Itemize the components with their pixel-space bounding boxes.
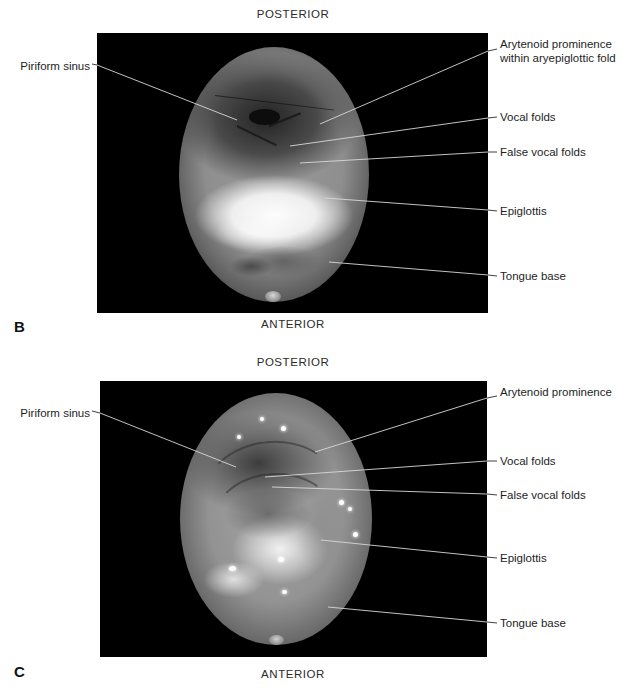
endoscopic-photo-b — [97, 33, 488, 313]
callout-piriform-sinus-c: Piriform sinus — [0, 407, 90, 421]
specular-highlight-c-8 — [278, 557, 284, 562]
callout-piriform-sinus-b: Piriform sinus — [0, 60, 90, 74]
anterior-commissure-nub-c — [269, 635, 284, 645]
specular-highlight-c-1 — [237, 435, 241, 439]
specular-highlight-c-2 — [281, 426, 286, 431]
callout-false-vocal-folds-c: False vocal folds — [500, 489, 628, 503]
leader-epiglottis-b — [488, 210, 497, 211]
callout-vocal-folds-c: Vocal folds — [500, 455, 628, 469]
leader-tongue-base-b — [488, 275, 497, 276]
leader-piriform-sinus-c — [92, 411, 100, 413]
laryngoscope-view-b — [179, 47, 369, 302]
callout-tongue-base-b: Tongue base — [500, 270, 628, 284]
callout-arytenoid-prominence-c: Arytenoid prominence — [500, 386, 628, 400]
specular-highlight-c-9 — [282, 590, 287, 594]
orientation-label-posterior-c: POSTERIOR — [233, 356, 353, 368]
specular-highlight-c-7 — [229, 566, 236, 571]
callout-false-vocal-folds-b: False vocal folds — [500, 146, 628, 160]
orientation-label-anterior-c: ANTERIOR — [233, 668, 353, 680]
specular-highlight-c-3 — [260, 417, 264, 421]
orientation-label-posterior-b: POSTERIOR — [233, 8, 353, 20]
leader-vocal-folds-b — [488, 117, 497, 118]
specular-highlight-c-5 — [348, 507, 352, 511]
leader-tongue-base-c — [487, 622, 497, 623]
leader-arytenoid-prominence-b — [488, 49, 497, 51]
anterior-commissure-nub-b — [265, 291, 281, 302]
callout-vocal-folds-b: Vocal folds — [500, 111, 628, 125]
leader-false-vocal-folds-c — [487, 494, 497, 495]
orientation-label-anterior-b: ANTERIOR — [233, 318, 353, 330]
leader-arytenoid-prominence-c — [487, 396, 497, 398]
callout-arytenoid-prominence-b: Arytenoid prominence within aryepiglotti… — [500, 38, 628, 65]
specular-highlight-c-4 — [339, 500, 344, 505]
callout-epiglottis-b: Epiglottis — [500, 205, 628, 219]
panel-letter-b: B — [14, 318, 25, 335]
callout-tongue-base-c: Tongue base — [500, 617, 628, 631]
specular-highlight-c-6 — [353, 532, 358, 537]
endoscopic-photo-c — [100, 381, 487, 657]
leader-epiglottis-c — [487, 557, 497, 558]
callout-epiglottis-c: Epiglottis — [500, 552, 628, 566]
panel-letter-c: C — [14, 663, 25, 680]
